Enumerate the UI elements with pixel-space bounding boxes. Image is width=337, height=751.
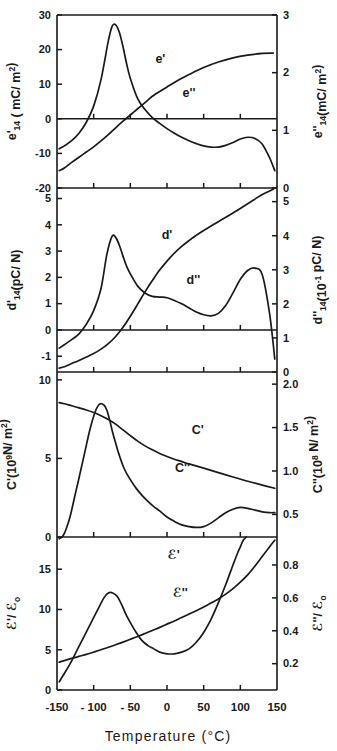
panel-eps: 0510150.20.40.60.8ℰ'ℰ''ℰ'/ ℰoℰ''/ ℰo [5, 537, 328, 696]
right-tick-label: 4 [283, 230, 290, 242]
left-tick-label: 0 [45, 531, 51, 543]
curve-C [59, 403, 275, 489]
panel-frame-sides [57, 15, 277, 188]
left-tick-label: 10 [39, 78, 51, 90]
panel-frame-sides [57, 188, 277, 372]
svg-text:d''14(10-1 pC/ N): d''14(10-1 pC/ N) [310, 236, 329, 325]
right-tick-label: 0.4 [283, 625, 299, 637]
left-tick-label: 10 [39, 603, 51, 615]
left-axis-title: C'(109N/ m2) [0, 419, 19, 490]
left-tick-label: 5 [45, 452, 51, 464]
x-tick-label: - 50 [120, 701, 140, 713]
left-tick-label: 30 [39, 9, 51, 21]
left-tick-label: 10 [39, 374, 51, 386]
curve-label: e' [155, 52, 165, 66]
curve-label: ℰ'' [173, 586, 188, 600]
left-axis-title: e'14 ( mC/ m2) [4, 63, 23, 141]
curve-d [59, 235, 275, 359]
svg-text:e''14(mC/ m2): e''14(mC/ m2) [310, 65, 329, 139]
right-axis-title: ℰ''/ ℰo [311, 595, 328, 631]
svg-text:C''(108 N/ m2): C''(108 N/ m2) [302, 416, 325, 493]
right-tick-label: 0.8 [283, 559, 298, 571]
panel-C: 05100.51.01.52.0C'C''C'(109N/ m2)C''(108… [0, 372, 325, 543]
right-tick-label: 0.2 [283, 657, 298, 669]
svg-text:e'14 ( mC/ m2): e'14 ( mC/ m2) [4, 63, 23, 141]
left-tick-label: 3 [45, 245, 51, 257]
curve-label: C' [192, 423, 204, 437]
right-tick-label: 3 [283, 264, 289, 276]
svg-text:C'(109N/ m2): C'(109N/ m2) [0, 419, 19, 490]
x-tick-label: 150 [267, 701, 286, 713]
left-tick-label: 0 [45, 684, 51, 696]
panel-d: -1012345012345d'd''d'14(pC/ N)d''14(10-1… [5, 188, 329, 378]
left-tick-label: -1 [41, 350, 51, 362]
curve-label: ℰ' [168, 548, 180, 562]
right-tick-label: 3 [283, 9, 289, 21]
left-tick-label: 0 [45, 113, 51, 125]
left-tick-label: 5 [45, 644, 51, 656]
right-tick-label: 5 [283, 195, 289, 207]
figure-container: -20-1001020300123e'e''e'14 ( mC/ m2)e''1… [0, 0, 337, 751]
panel-e: -20-1001020300123e'e''e'14 ( mC/ m2)e''1… [4, 9, 329, 194]
right-tick-label: 2.0 [283, 378, 298, 390]
right-tick-label: 1.0 [283, 465, 298, 477]
curve-label: d'' [187, 273, 201, 287]
svg-text:ℰ''/ ℰo: ℰ''/ ℰo [311, 595, 328, 631]
x-tick-label: 100 [231, 701, 250, 713]
left-tick-label: 15 [39, 563, 51, 575]
curve-C [59, 404, 275, 539]
left-tick-label: 0 [45, 324, 51, 336]
curve-label: C'' [175, 461, 190, 475]
right-axis-title: C''(108 N/ m2) [302, 416, 325, 493]
right-tick-label: 0 [283, 182, 289, 194]
right-tick-label: 2 [283, 298, 289, 310]
left-axis-title: d'14(pC/ N) [5, 249, 23, 310]
x-tick-label: 0 [164, 701, 170, 713]
x-axis: -150- 100- 50050100150Temperature (°C) [45, 701, 286, 744]
left-tick-label: 20 [39, 43, 51, 55]
right-tick-label: 1 [283, 332, 289, 344]
right-tick-label: 0.6 [283, 592, 298, 604]
panel-frame-sides [57, 372, 277, 537]
left-tick-label: 1 [45, 297, 51, 309]
left-tick-label: 4 [45, 219, 52, 231]
left-axis-title: ℰ'/ ℰo [5, 597, 22, 630]
x-tick-label: -150 [45, 701, 68, 713]
svg-text:d'14(pC/ N): d'14(pC/ N) [5, 249, 23, 310]
right-tick-label: 1 [283, 124, 289, 136]
left-tick-label: -10 [35, 147, 51, 159]
curve-eps [59, 537, 246, 682]
x-tick-label: 50 [197, 701, 210, 713]
x-axis-title: Temperature (°C) [105, 728, 232, 744]
left-tick-label: 2 [45, 271, 51, 283]
right-axis-title: e''14(mC/ m2) [310, 65, 329, 139]
right-tick-label: 1.5 [283, 421, 298, 433]
right-tick-label: 0 [283, 366, 289, 378]
multi-panel-figure: -20-1001020300123e'e''e'14 ( mC/ m2)e''1… [0, 0, 337, 751]
right-tick-label: 2 [283, 66, 289, 78]
curve-label: d' [162, 228, 173, 242]
x-tick-label: - 100 [81, 701, 107, 713]
right-tick-label: 0.5 [283, 508, 298, 520]
svg-text:ℰ'/ ℰo: ℰ'/ ℰo [5, 597, 22, 630]
curve-label: e'' [183, 86, 196, 100]
right-axis-title: d''14(10-1 pC/ N) [310, 236, 329, 325]
left-tick-label: 5 [45, 192, 51, 204]
